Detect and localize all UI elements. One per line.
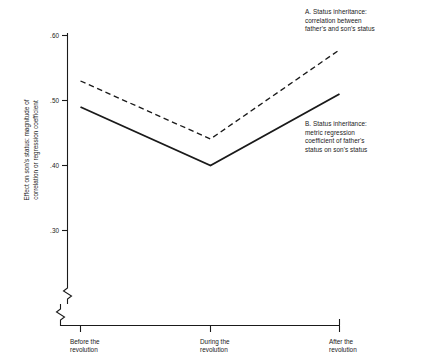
x-tick-label-before: Before the revolution [70, 338, 140, 355]
y-axis-title-wrapper: Effect on son's status: magnitude of cor… [21, 57, 43, 243]
y-axis-title: Effect on son's status: magnitude of cor… [23, 100, 40, 201]
series-a-annotation: A. Status inheritance: correlation betwe… [305, 8, 423, 34]
y-axis-break-lower-icon [57, 304, 65, 326]
series-b-annotation: B. Status inheritance: metric regression… [305, 120, 423, 154]
chart-plot-area [0, 0, 424, 363]
chart-container: .60 .50 .40 .30 Before the revolution Du… [0, 0, 424, 363]
x-tick-label-after: After the revolution [329, 338, 409, 355]
series-a-dashed-line [81, 50, 340, 139]
x-tick-label-during: During the revolution [200, 338, 270, 355]
y-tick-label-60: .60 [39, 32, 59, 39]
series-b-solid-line [81, 94, 340, 166]
y-axis-break-upper-icon [64, 283, 72, 304]
